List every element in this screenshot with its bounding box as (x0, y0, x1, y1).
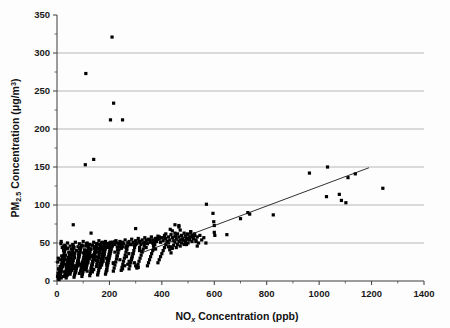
data-point (145, 246, 148, 249)
data-point (105, 269, 108, 272)
data-point (212, 220, 215, 223)
data-point (211, 212, 214, 215)
data-points (56, 35, 385, 281)
y-tick-label: 0 (45, 275, 50, 286)
data-point (137, 260, 140, 263)
data-point (202, 236, 205, 239)
data-point (112, 270, 115, 273)
data-point (175, 246, 178, 249)
data-point (130, 243, 133, 246)
data-point (196, 244, 199, 247)
data-point (88, 243, 91, 246)
data-point (143, 241, 146, 244)
scatter-plot-figure: 0200400600800100012001400 05010015020025… (0, 0, 450, 328)
data-point (272, 213, 275, 216)
data-point (72, 244, 75, 247)
data-point (65, 264, 68, 267)
data-point (189, 230, 192, 233)
data-point (148, 258, 151, 261)
data-point (59, 273, 62, 276)
data-point (57, 257, 60, 260)
data-point (110, 244, 113, 247)
data-point (163, 246, 166, 249)
data-point (160, 252, 163, 255)
data-point (381, 187, 384, 190)
data-point (112, 261, 115, 264)
ylabel-main-a: PM (9, 201, 21, 217)
data-point (134, 227, 137, 230)
data-point (112, 102, 115, 105)
trend-line (144, 168, 369, 252)
data-point (127, 241, 130, 244)
x-tick-label: 600 (206, 288, 222, 299)
data-point (71, 249, 74, 252)
data-point (150, 252, 153, 255)
data-point (84, 257, 87, 260)
data-point (121, 118, 124, 121)
data-point (92, 268, 95, 271)
data-point (92, 257, 95, 260)
data-point (60, 254, 63, 257)
data-point (88, 257, 91, 260)
data-point (119, 242, 122, 245)
data-point (78, 272, 81, 275)
data-point (173, 223, 176, 226)
y-tick-label: 50 (39, 237, 50, 248)
data-point (116, 251, 119, 254)
data-point (106, 242, 109, 245)
data-point (84, 163, 87, 166)
data-point (62, 244, 65, 247)
data-point (78, 247, 81, 250)
data-point (326, 165, 329, 168)
data-point (131, 252, 134, 255)
data-point (213, 234, 216, 237)
y-axis-title: PM2.5 Concentration (μg/m3) (9, 79, 24, 218)
data-point (118, 258, 121, 261)
data-point (132, 249, 135, 252)
data-point (159, 255, 162, 258)
data-point (99, 244, 102, 247)
data-point (138, 249, 141, 252)
data-point (340, 199, 343, 202)
data-point (198, 234, 201, 237)
data-point (115, 254, 118, 257)
data-point (103, 253, 106, 256)
data-point (138, 241, 141, 244)
data-point (148, 238, 151, 241)
data-point (146, 264, 149, 267)
data-point (158, 258, 161, 261)
data-point (135, 240, 138, 243)
data-point (134, 264, 137, 267)
data-point (127, 260, 130, 263)
data-point (77, 251, 80, 254)
data-point (121, 267, 124, 270)
x-tick-label: 800 (259, 288, 275, 299)
data-point (169, 251, 172, 254)
svg-text:PM2.5 Concentration (μg/m3): PM2.5 Concentration (μg/m3) (9, 79, 24, 218)
data-point (72, 266, 75, 269)
data-point (197, 241, 200, 244)
data-point (66, 247, 69, 250)
data-point (113, 266, 116, 269)
data-point (190, 240, 193, 243)
x-tick-label: 200 (101, 288, 117, 299)
data-point (171, 229, 174, 232)
data-point (163, 237, 166, 240)
data-point (110, 35, 113, 38)
data-point (130, 257, 133, 260)
data-point (105, 257, 108, 260)
y-tick-label: 150 (34, 161, 50, 172)
y-tick-label: 100 (34, 199, 50, 210)
data-point (162, 249, 165, 252)
data-point (69, 258, 72, 261)
data-point (156, 261, 159, 264)
data-point (70, 262, 73, 265)
y-tick-label: 200 (34, 123, 50, 134)
data-point (205, 203, 208, 206)
data-point (204, 241, 207, 244)
data-point (124, 238, 127, 241)
data-point (179, 228, 182, 231)
data-point (106, 246, 109, 249)
data-point (72, 223, 75, 226)
data-point (147, 261, 150, 264)
